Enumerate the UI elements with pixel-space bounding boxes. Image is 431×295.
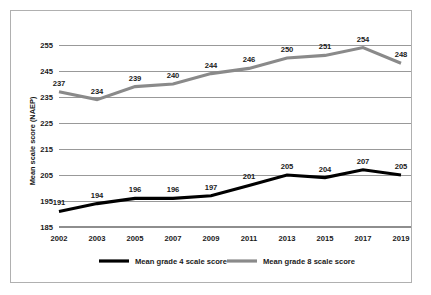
x-tick-label: 2011	[241, 234, 258, 243]
data-point-label: 250	[281, 45, 294, 54]
data-point-label: 244	[205, 61, 218, 70]
chart-plot-area: 185195205215225235245255 200220032005200…	[11, 11, 411, 282]
gridlines-group	[59, 45, 411, 227]
data-labels-grade-4: 191194196196197201205204207205	[53, 157, 408, 208]
x-tick-label: 2019	[393, 234, 410, 243]
data-point-label: 196	[129, 185, 142, 194]
y-tick-label: 225	[40, 119, 53, 128]
chart-figure: 185195205215225235245255 200220032005200…	[10, 10, 412, 283]
x-tick-label: 2003	[89, 234, 106, 243]
chart-legend: Mean grade 4 scale score Mean grade 8 sc…	[99, 257, 355, 266]
x-axis-tick-labels: 2002200320052007200920112013201520172019	[51, 234, 410, 243]
x-tick-label: 2017	[355, 234, 372, 243]
legend-label-grade-4: Mean grade 4 scale score	[135, 257, 227, 266]
data-point-label: 207	[357, 157, 370, 166]
y-tick-label: 215	[40, 145, 53, 154]
x-tick-label: 2007	[165, 234, 182, 243]
y-tick-label: 185	[40, 223, 53, 232]
data-point-label: 234	[91, 87, 104, 96]
data-point-label: 197	[205, 183, 218, 192]
data-point-label: 204	[319, 165, 332, 174]
data-point-label: 251	[319, 42, 332, 51]
data-point-label: 239	[129, 74, 142, 83]
data-point-label: 205	[281, 162, 294, 171]
data-point-label: 194	[91, 191, 104, 200]
x-tick-label: 2002	[51, 234, 68, 243]
y-tick-label: 235	[40, 93, 53, 102]
x-tick-label: 2013	[279, 234, 296, 243]
data-point-label: 240	[167, 71, 180, 80]
data-point-label: 246	[243, 55, 256, 64]
x-tick-label: 2009	[203, 234, 220, 243]
y-tick-label: 205	[40, 171, 53, 180]
data-point-label: 237	[53, 79, 66, 88]
line-chart-svg: 185195205215225235245255 200220032005200…	[11, 11, 413, 284]
data-point-label: 254	[357, 35, 370, 44]
data-point-label: 191	[53, 198, 66, 207]
y-tick-label: 245	[40, 67, 53, 76]
legend-label-grade-8: Mean grade 8 scale score	[263, 257, 355, 266]
data-labels-grade-8: 237234239240244246250251254248	[53, 35, 408, 96]
data-point-label: 248	[395, 50, 408, 59]
y-tick-label: 255	[40, 41, 53, 50]
x-tick-label: 2015	[317, 234, 335, 243]
x-tick-label: 2005	[127, 234, 145, 243]
data-point-label: 196	[167, 185, 180, 194]
series-line-grade-4	[59, 170, 401, 212]
series-line-grade-8	[59, 48, 401, 100]
data-point-label: 205	[395, 162, 408, 171]
data-point-label: 201	[243, 172, 256, 181]
y-axis-title: Mean scale score (NAEP)	[28, 96, 37, 185]
